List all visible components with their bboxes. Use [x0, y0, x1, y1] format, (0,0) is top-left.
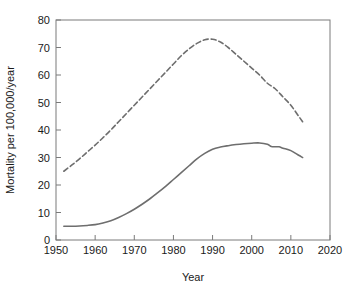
- mortality-line-chart: 19501960197019801990200020102020 0102030…: [0, 0, 359, 287]
- y-tick-label: 40: [38, 124, 50, 136]
- y-tick-label: 20: [38, 179, 50, 191]
- x-tick-label: 1980: [161, 244, 185, 256]
- y-tick-label: 80: [38, 14, 50, 26]
- x-tick-label: 2000: [239, 244, 263, 256]
- chart-container: 19501960197019801990200020102020 0102030…: [0, 0, 359, 287]
- x-tick-label: 1970: [122, 244, 146, 256]
- y-tick-label: 70: [38, 42, 50, 54]
- y-tick-label: 50: [38, 97, 50, 109]
- y-tick-label: 0: [44, 234, 50, 246]
- y-tick-label: 30: [38, 152, 50, 164]
- y-axis-tick-labels: 01020304050607080: [38, 14, 50, 246]
- x-axis-title: Year: [182, 271, 205, 283]
- y-tick-label: 10: [38, 207, 50, 219]
- y-axis-title: Mortality per 100,000/year: [4, 66, 16, 194]
- x-tick-label: 1960: [83, 244, 107, 256]
- y-tick-label: 60: [38, 69, 50, 81]
- x-tick-label: 1990: [200, 244, 224, 256]
- x-tick-label: 2020: [318, 244, 342, 256]
- x-tick-label: 2010: [279, 244, 303, 256]
